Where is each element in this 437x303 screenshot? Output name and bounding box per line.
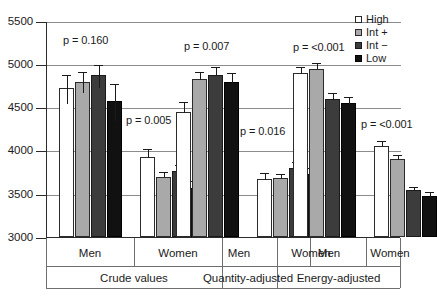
y-axis-tick-4000 xyxy=(36,151,46,152)
y-axis-tick-4500 xyxy=(36,108,46,109)
bar-quantity-women-high xyxy=(257,179,272,237)
errorbar-crude-men-intplus xyxy=(83,72,84,93)
axis-bottom-divider xyxy=(46,288,400,289)
bar-energy-men-low xyxy=(341,103,356,237)
pvalue-energy-women: p = <0.001 xyxy=(361,119,413,130)
legend-swatch-low-icon xyxy=(355,55,362,62)
y-axis-label-5500: 5500 xyxy=(0,16,33,28)
errorcap-energy-men-intminus xyxy=(328,93,337,94)
pvalue-crude-women: p = 0.005 xyxy=(126,115,171,126)
errorcap-crude-men-intplus xyxy=(78,72,87,73)
errorcap-energy-men-low xyxy=(344,97,353,98)
errorcap-quantity-women-high xyxy=(260,173,269,174)
bar-energy-men-intplus xyxy=(309,69,324,238)
errorbar-energy-men-intplus xyxy=(317,63,318,70)
axis-sep-right-edge xyxy=(400,238,401,288)
legend-label-intminus: Int − xyxy=(366,40,388,51)
y-axis-tick-3000 xyxy=(36,238,46,239)
errorcap-energy-women-low xyxy=(425,192,434,193)
errorcap-quantity-men-intminus xyxy=(211,67,220,68)
bar-energy-women-high xyxy=(374,146,389,237)
errorcap-crude-women-high xyxy=(143,149,152,150)
axis-group-label-energy: Energy-adjusted xyxy=(277,272,400,284)
errorcap-quantity-men-intplus xyxy=(195,72,204,73)
errorcap-quantity-women-intplus xyxy=(276,174,285,175)
axis-row-divider xyxy=(46,266,400,267)
errorbar-crude-men-low xyxy=(115,84,116,120)
bar-energy-men-intminus xyxy=(325,99,340,237)
legend-swatch-high-icon xyxy=(355,16,362,23)
y-axis-label-4000: 4000 xyxy=(0,145,33,157)
errorcap-quantity-men-high xyxy=(179,102,188,103)
y-axis-label-3500: 3500 xyxy=(0,189,33,201)
y-axis-label-3000: 3000 xyxy=(0,232,33,244)
pvalue-crude-men: p = 0.160 xyxy=(63,35,108,46)
errorcap-energy-women-intplus xyxy=(393,155,402,156)
errorbar-quantity-men-intplus xyxy=(200,72,201,80)
bar-crude-men-intminus xyxy=(91,75,106,237)
bar-quantity-men-intplus xyxy=(192,79,207,237)
errorbar-quantity-men-intminus xyxy=(216,67,217,76)
errorcap-quantity-men-low xyxy=(227,73,236,74)
pvalue-energy-men: p = <0.001 xyxy=(293,42,345,53)
y-axis-tick-5500 xyxy=(36,22,46,23)
bar-crude-men-intplus xyxy=(75,82,90,238)
errorcap-crude-men-intminus xyxy=(94,65,103,66)
axis-label-energy-women: Women xyxy=(356,247,424,259)
errorbar-energy-men-high xyxy=(301,67,302,74)
bar-crude-women-intplus xyxy=(156,177,171,238)
legend-item-low[interactable]: Low xyxy=(355,53,417,65)
legend-item-high[interactable]: High xyxy=(355,14,417,26)
legend-label-intplus: Int + xyxy=(366,27,388,38)
errorcap-energy-women-intminus xyxy=(409,187,418,188)
y-axis-tick-5000 xyxy=(36,65,46,66)
errorbar-crude-women-high xyxy=(148,149,149,158)
legend-label-low: Low xyxy=(366,53,386,64)
legend-item-intminus[interactable]: Int − xyxy=(355,40,417,52)
legend-swatch-intplus-icon xyxy=(355,29,362,36)
errorcap-crude-men-low xyxy=(110,84,119,85)
gridline-5500 xyxy=(47,22,401,23)
errorcap-crude-women-intplus xyxy=(159,172,168,173)
axis-label-crude-men: Men xyxy=(46,247,134,259)
bar-quantity-men-high xyxy=(176,112,191,237)
bar-energy-women-intminus xyxy=(406,190,421,237)
plot-area: p = 0.160 p = 0.005 p = 0.007 p = 0.016 … xyxy=(46,22,400,238)
errorcap-energy-men-high xyxy=(296,67,305,68)
pvalue-quantity-women: p = 0.016 xyxy=(240,126,285,137)
legend: High Int + Int − Low xyxy=(355,14,417,66)
y-axis-label-4500: 4500 xyxy=(0,102,33,114)
bar-quantity-men-low xyxy=(224,82,239,237)
errorbar-quantity-women-high xyxy=(265,173,266,180)
bar-crude-men-high xyxy=(59,88,74,237)
axis-label-energy-men: Men xyxy=(292,247,366,259)
errorcap-energy-men-intplus xyxy=(312,63,321,64)
errorbar-quantity-men-low xyxy=(232,73,233,83)
pvalue-quantity-men: p = 0.007 xyxy=(184,41,229,52)
bar-quantity-men-intminus xyxy=(208,75,223,237)
axis-label-quantity-men: Men xyxy=(200,247,278,259)
bar-crude-women-high xyxy=(140,157,155,237)
y-axis-tick-3500 xyxy=(36,195,46,196)
legend-item-intplus[interactable]: Int + xyxy=(355,27,417,39)
bar-energy-women-intplus xyxy=(390,159,405,237)
errorbar-crude-men-intminus xyxy=(99,65,100,88)
bar-energy-women-low xyxy=(422,196,437,237)
errorbar-quantity-men-high xyxy=(184,102,185,113)
errorcap-crude-men-high xyxy=(62,75,71,76)
errorcap-energy-women-high xyxy=(377,141,386,142)
y-axis-label-5000: 5000 xyxy=(0,59,33,71)
bar-crude-men-low xyxy=(107,101,122,237)
errorbar-crude-men-high xyxy=(67,75,68,104)
errorbar-energy-men-low xyxy=(349,97,350,104)
legend-swatch-intminus-icon xyxy=(355,42,362,49)
bar-energy-men-high xyxy=(293,73,308,237)
legend-label-high: High xyxy=(366,14,389,25)
bar-quantity-women-intplus xyxy=(273,178,288,237)
